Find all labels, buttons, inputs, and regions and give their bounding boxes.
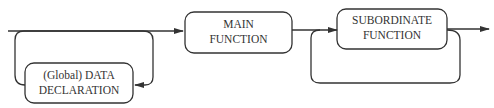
data-declaration-label: (Global) DATA DECLARATION xyxy=(25,68,133,98)
main-label-line2: FUNCTION xyxy=(185,32,292,47)
main-function-label: MAIN FUNCTION xyxy=(185,17,292,47)
subordinate-function-label: SUBORDINATE FUNCTION xyxy=(337,13,447,43)
data-label-line1: (Global) DATA xyxy=(25,68,133,83)
data-label-line2: DECLARATION xyxy=(25,83,133,98)
main-label-line1: MAIN xyxy=(185,17,292,32)
sub-label-line2: FUNCTION xyxy=(337,28,447,43)
sub-label-line1: SUBORDINATE xyxy=(337,13,447,28)
